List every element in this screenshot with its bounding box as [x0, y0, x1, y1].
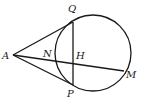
label-P: P — [66, 88, 74, 99]
circle — [55, 15, 131, 91]
label-H: H — [75, 50, 85, 61]
geometry-diagram: A Q P N H M — [0, 0, 141, 105]
label-A: A — [1, 50, 9, 61]
label-Q: Q — [68, 3, 76, 14]
label-N: N — [42, 48, 53, 59]
label-M: M — [125, 69, 137, 80]
